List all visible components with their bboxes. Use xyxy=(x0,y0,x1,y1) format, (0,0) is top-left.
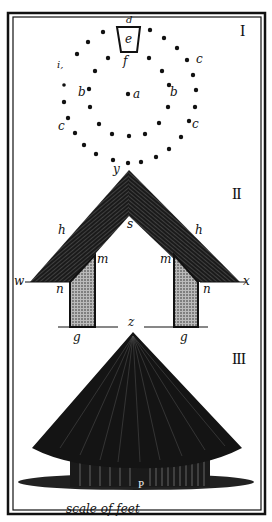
scale-of-feet-label: scale of feet xyxy=(66,502,140,516)
label-e: e xyxy=(125,33,132,45)
post-circle-inner xyxy=(87,56,171,138)
label-f: f xyxy=(123,55,127,67)
label-y: y xyxy=(113,163,120,175)
label-m-right: m xyxy=(160,253,171,265)
label-c-top-right: c xyxy=(196,53,203,65)
label-h-left: h xyxy=(58,224,66,236)
center-post xyxy=(126,92,130,96)
label-d: d xyxy=(126,15,132,25)
label-n-left: n xyxy=(56,283,64,295)
label-s: s xyxy=(127,218,133,230)
label-i: i, xyxy=(57,60,63,70)
label-h-right: h xyxy=(195,224,203,236)
label-n-right: n xyxy=(203,283,211,295)
engraving-plate: I II III d e f a b b c c c i, y s h h m … xyxy=(0,0,272,522)
label-g-right: g xyxy=(180,331,188,343)
plate-drawing xyxy=(0,0,272,522)
label-b-right: b xyxy=(170,86,178,98)
hut-elevation xyxy=(18,332,254,490)
label-c-left: c xyxy=(58,120,65,132)
numeral-II: II xyxy=(232,185,241,203)
label-a: a xyxy=(133,88,140,100)
label-p: P xyxy=(138,478,144,490)
label-b-left: b xyxy=(78,86,86,98)
numeral-III: III xyxy=(232,350,245,368)
label-w: w xyxy=(14,275,24,287)
label-m-left: m xyxy=(97,253,108,265)
numeral-I: I xyxy=(240,22,244,40)
label-z: z xyxy=(128,316,134,328)
label-g-left: g xyxy=(73,331,81,343)
label-c-right: c xyxy=(192,118,199,130)
label-x: x xyxy=(243,275,250,287)
